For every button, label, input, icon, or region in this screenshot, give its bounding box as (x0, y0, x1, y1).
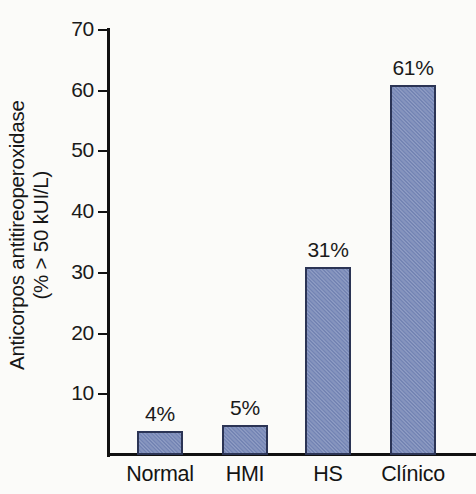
y-tick-mark (98, 211, 107, 213)
bar (137, 431, 183, 455)
bar (222, 425, 268, 455)
y-tick-mark (98, 29, 107, 31)
y-tick-mark (98, 393, 107, 395)
y-tick-mark (98, 90, 107, 92)
y-tick-label: 60 (48, 78, 94, 102)
bar-chart: Anticorpos antitireoperoxidase (% > 50 k… (0, 0, 476, 494)
y-tick-label: 70 (48, 17, 94, 41)
bar-value-label: 61% (353, 56, 473, 80)
y-tick-label: 40 (48, 199, 94, 223)
y-axis-title-line-1: Anticorpos antitireoperoxidase (5, 100, 29, 370)
bar (305, 267, 351, 455)
y-tick-label: 20 (48, 321, 94, 345)
y-tick-mark (98, 150, 107, 152)
y-tick-label: 10 (48, 381, 94, 405)
y-tick-label: 50 (48, 138, 94, 162)
y-tick-mark (98, 272, 107, 274)
y-axis-line (107, 28, 110, 457)
y-tick-mark (98, 333, 107, 335)
bar-value-label: 5% (185, 396, 305, 420)
bar-value-label: 31% (268, 238, 388, 262)
bar (390, 85, 436, 455)
x-axis-category-label: Clínico (343, 462, 476, 487)
y-tick-label: 30 (48, 260, 94, 284)
